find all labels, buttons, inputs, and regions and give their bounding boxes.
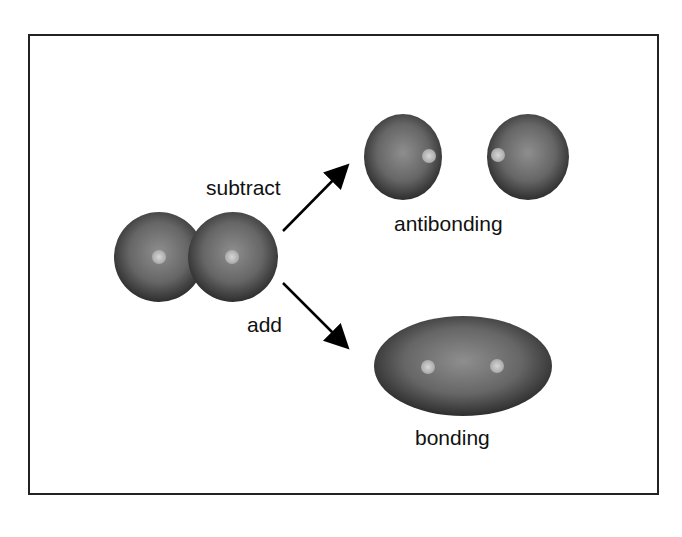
add-label: add — [247, 313, 282, 337]
atomic-orbitals-overlap — [114, 212, 278, 302]
orbital-diagram — [0, 0, 682, 537]
subtract-label: subtract — [206, 176, 281, 200]
bonding-orbital — [374, 316, 552, 416]
bonding-label: bonding — [415, 426, 490, 450]
subtract-arrow — [283, 167, 346, 231]
add-arrow — [283, 283, 346, 346]
antibonding-orbitals — [364, 114, 569, 200]
antibonding-label: antibonding — [394, 212, 503, 236]
